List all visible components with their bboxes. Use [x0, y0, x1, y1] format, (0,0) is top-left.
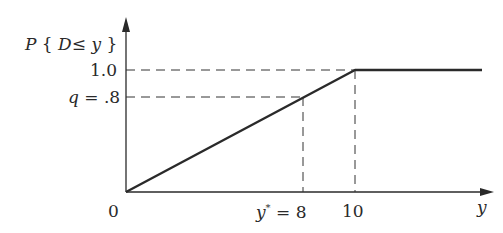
- ylabel-p: P: [25, 34, 36, 54]
- ylabel-y: y: [91, 34, 101, 54]
- tick-label-ystar: y* = 8: [256, 203, 306, 221]
- y-axis-label: P { D≤ y }: [25, 36, 117, 53]
- ystar-val: = 8: [271, 202, 307, 222]
- ystar-var: y: [256, 202, 266, 222]
- x-axis-arrow-icon: [480, 188, 494, 196]
- q-val: = .8: [79, 87, 120, 107]
- ylabel-open-brace: {: [42, 34, 53, 54]
- tick-label-10: 10: [342, 203, 364, 220]
- y-axis-arrow-icon: [122, 17, 130, 32]
- ylabel-le: ≤: [72, 34, 86, 54]
- x-axis-label: y: [477, 199, 487, 216]
- tick-label-1.0: 1.0: [90, 62, 117, 79]
- ylabel-d: D: [58, 34, 72, 54]
- tick-label-0: 0: [108, 203, 119, 220]
- cdf-line: [126, 70, 482, 192]
- tick-label-q: q = .8: [68, 89, 120, 106]
- ylabel-close-brace: }: [106, 34, 117, 54]
- q-var: q: [68, 87, 79, 107]
